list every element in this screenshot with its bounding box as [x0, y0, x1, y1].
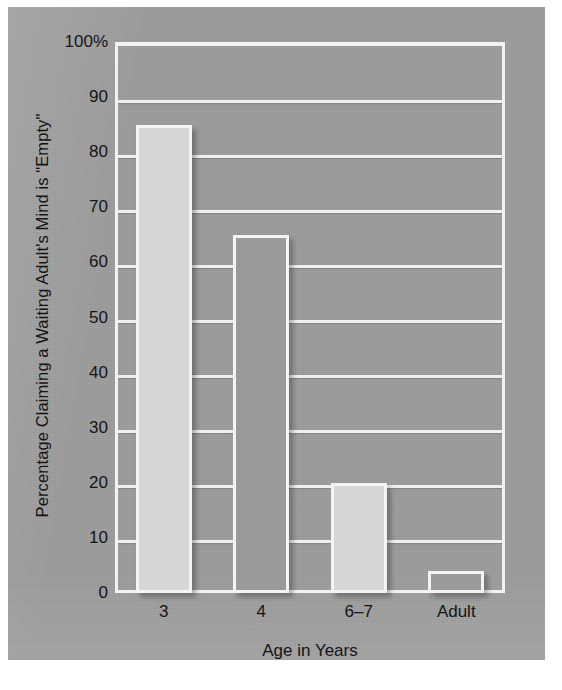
x-axis-tick-labels: 346–7Adult — [0, 0, 562, 690]
x-axis-title: Age in Years — [115, 641, 505, 661]
x-tick-label: 4 — [213, 603, 311, 622]
x-tick-label: 6–7 — [310, 603, 408, 622]
x-tick-label: Adult — [408, 603, 506, 622]
figure-canvas: Percentage Claiming a Waiting Adult's Mi… — [0, 0, 562, 690]
x-tick-label: 3 — [115, 603, 213, 622]
